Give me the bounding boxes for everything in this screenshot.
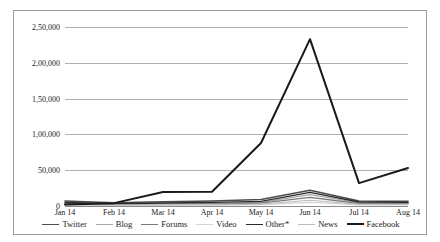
- chart-legend: TwitterBlogForumsVideoOther*NewsFacebook: [14, 219, 428, 229]
- x-tick-label: Jul 14: [349, 208, 368, 217]
- legend-swatch-twitter: [42, 224, 59, 225]
- legend-swatch-blog: [96, 224, 113, 225]
- legend-item-blog[interactable]: Blog: [96, 219, 133, 229]
- legend-label-other-: Other*: [266, 219, 290, 229]
- legend-label-twitter: Twitter: [62, 219, 86, 229]
- chart-figure: 050,0001,00,0001,50,0002,00,0002,50,000 …: [13, 10, 427, 235]
- y-tick-label: 1,50,000: [32, 94, 60, 103]
- legend-label-forums: Forums: [161, 219, 187, 229]
- series-lines-group: [65, 27, 408, 206]
- series-line-facebook: [65, 39, 408, 204]
- legend-swatch-news: [298, 224, 315, 225]
- x-tick-label: Jun 14: [299, 208, 320, 217]
- legend-swatch-video: [196, 224, 213, 225]
- legend-item-other-[interactable]: Other*: [246, 219, 290, 229]
- legend-swatch-other-: [246, 224, 263, 225]
- legend-item-forums[interactable]: Forums: [141, 219, 187, 229]
- y-tick-label: 1,00,000: [32, 130, 60, 139]
- y-tick-label: 2,50,000: [32, 23, 60, 32]
- legend-item-twitter[interactable]: Twitter: [42, 219, 86, 229]
- x-tick-label: Apr 14: [201, 208, 223, 217]
- legend-swatch-forums: [141, 224, 158, 225]
- y-tick-label: 50,000: [38, 166, 60, 175]
- legend-item-video[interactable]: Video: [196, 219, 236, 229]
- x-tick-label: Mar 14: [151, 208, 174, 217]
- y-tick-label: 2,00,000: [32, 58, 60, 67]
- legend-label-news: News: [318, 219, 337, 229]
- x-tick-label: Jan 14: [55, 208, 76, 217]
- legend-label-blog: Blog: [116, 219, 133, 229]
- legend-label-facebook: Facebook: [367, 219, 400, 229]
- gridline-0: 0: [65, 206, 408, 207]
- legend-swatch-facebook: [347, 223, 364, 225]
- legend-item-news[interactable]: News: [298, 219, 337, 229]
- x-tick-label: Aug 14: [396, 208, 420, 217]
- plot-area: 050,0001,00,0001,50,0002,00,0002,50,000: [65, 27, 408, 206]
- legend-label-video: Video: [216, 219, 236, 229]
- x-tick-label: Feb 14: [103, 208, 125, 217]
- x-tick-label: May 14: [249, 208, 274, 217]
- legend-item-facebook[interactable]: Facebook: [347, 219, 400, 229]
